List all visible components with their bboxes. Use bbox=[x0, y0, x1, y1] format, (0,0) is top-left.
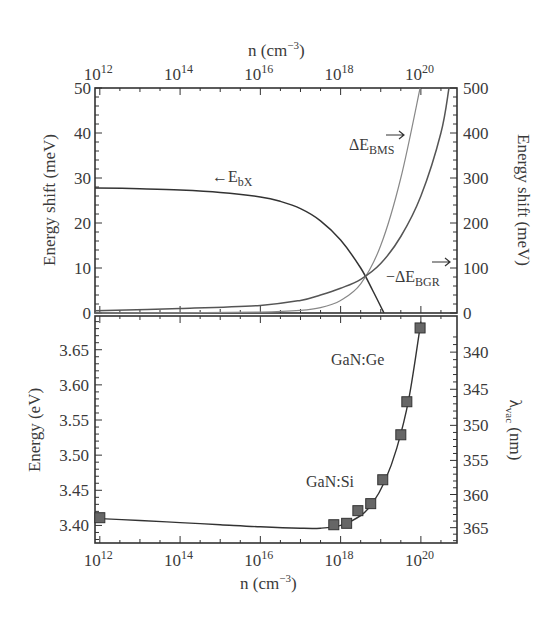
data-point-square bbox=[415, 323, 425, 333]
plot-curves bbox=[95, 88, 449, 529]
svg-text:20: 20 bbox=[74, 214, 91, 233]
svg-text:300: 300 bbox=[463, 169, 489, 188]
bottom-left-y-axis-label: Energy (eV) bbox=[25, 388, 44, 472]
data-point-square bbox=[95, 513, 105, 523]
x-tick-label: 1014 bbox=[164, 548, 193, 570]
bottom-x-axis-label: n (cm−3) bbox=[240, 572, 297, 593]
svg-text:3.40: 3.40 bbox=[59, 516, 89, 535]
x-tick-label: 1012 bbox=[84, 548, 113, 570]
y-tick-labels: 0102030405001002003004005003.403.453.503… bbox=[59, 79, 488, 538]
svg-text:0: 0 bbox=[83, 304, 92, 323]
svg-text:30: 30 bbox=[74, 169, 91, 188]
top-right-y-axis-label: Energy shift (meV) bbox=[514, 134, 533, 266]
bottom-x-tick-labels: 10121014101610181020 bbox=[84, 548, 434, 570]
ebx-annotation: ←EbX bbox=[212, 168, 253, 189]
curve-ebx bbox=[95, 188, 384, 313]
top-left-y-axis-label: Energy shift (meV) bbox=[40, 134, 59, 266]
svg-text:50: 50 bbox=[74, 79, 91, 98]
data-point-square bbox=[366, 499, 376, 509]
svg-text:200: 200 bbox=[463, 214, 489, 233]
data-point-square bbox=[342, 518, 352, 528]
svg-text:400: 400 bbox=[463, 124, 489, 143]
x-tick-label: 1018 bbox=[325, 62, 354, 84]
svg-text:3.65: 3.65 bbox=[59, 341, 89, 360]
x-tick-label: 1020 bbox=[405, 548, 434, 570]
bgr-arrow-icon bbox=[432, 258, 450, 266]
x-tick-label: 1018 bbox=[325, 548, 354, 570]
svg-text:3.50: 3.50 bbox=[59, 446, 89, 465]
bms-annotation: ΔEBMS bbox=[349, 136, 394, 157]
svg-text:360: 360 bbox=[463, 486, 489, 505]
svg-text:340: 340 bbox=[463, 343, 489, 362]
svg-text:40: 40 bbox=[74, 124, 91, 143]
bgr-annotation: −ΔEBGR bbox=[386, 268, 440, 289]
x-tick-label: 1016 bbox=[244, 62, 273, 84]
svg-text:355: 355 bbox=[463, 451, 489, 470]
gan-ge-annotation: GaN:Ge bbox=[331, 351, 384, 368]
curve-ebms bbox=[95, 88, 420, 313]
data-point-square bbox=[378, 475, 388, 485]
data-point-square bbox=[396, 430, 406, 440]
chart-figure: n (cm−3) 10121014101610181020 1012101410… bbox=[0, 0, 553, 624]
svg-text:3.60: 3.60 bbox=[59, 376, 89, 395]
svg-text:3.45: 3.45 bbox=[59, 481, 89, 500]
svg-text:3.55: 3.55 bbox=[59, 411, 89, 430]
x-tick-label: 1016 bbox=[244, 548, 273, 570]
svg-text:10: 10 bbox=[74, 259, 91, 278]
top-x-axis-label: n (cm−3) bbox=[248, 39, 305, 60]
x-tick-label: 1020 bbox=[405, 62, 434, 84]
svg-text:0: 0 bbox=[463, 304, 472, 323]
svg-text:345: 345 bbox=[463, 380, 489, 399]
top-x-tick-labels: 10121014101610181020 bbox=[84, 62, 434, 84]
svg-text:500: 500 bbox=[463, 79, 489, 98]
data-point-square bbox=[402, 397, 412, 407]
bms-arrow-icon bbox=[386, 131, 404, 139]
gan-si-annotation: GaN:Si bbox=[306, 473, 355, 490]
svg-text:100: 100 bbox=[463, 259, 489, 278]
data-point-square bbox=[329, 520, 339, 530]
svg-text:365: 365 bbox=[463, 519, 489, 538]
x-tick-label: 1014 bbox=[164, 62, 193, 84]
svg-text:350: 350 bbox=[463, 416, 489, 435]
data-point-square bbox=[353, 506, 363, 516]
bottom-right-y-axis-label: λvac (nm) bbox=[504, 400, 525, 461]
